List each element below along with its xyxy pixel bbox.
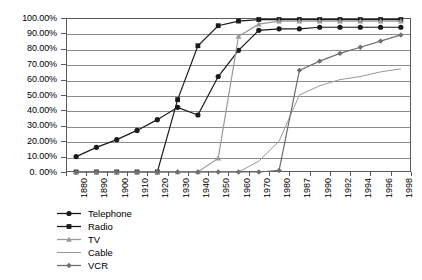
x-axis-tick-label: 1994: [364, 178, 373, 198]
data-point: [256, 17, 261, 22]
legend-item-cable[interactable]: Cable: [56, 246, 216, 259]
data-point: [74, 154, 79, 159]
x-axis-tick-mark: [330, 172, 331, 176]
data-point: [175, 97, 180, 102]
series-line: [76, 27, 401, 156]
data-point: [155, 117, 160, 122]
x-axis-tick-mark: [147, 172, 148, 176]
x-axis-tick-mark: [228, 172, 229, 176]
y-axis-tick-label: 10.00%: [27, 152, 57, 161]
y-axis-tick-label: 70.00%: [27, 60, 57, 69]
x-axis-tick-mark: [370, 172, 371, 176]
x-axis-tick-label: 1970: [263, 178, 272, 198]
legend-label: Cable: [82, 246, 113, 259]
x-axis-tick-label: 1992: [344, 178, 353, 198]
legend-label: Radio: [82, 220, 113, 233]
data-point: [216, 23, 221, 28]
data-point: [114, 137, 119, 142]
y-axis-tick-label: 20.00%: [27, 137, 57, 146]
legend-item-vcr[interactable]: VCR: [56, 259, 216, 272]
chart-legend: TelephoneRadioTVCableVCR: [56, 207, 216, 272]
legend-label: TV: [82, 233, 100, 246]
legend-item-telephone[interactable]: Telephone: [56, 207, 216, 220]
series-cable: [76, 69, 401, 172]
series-radio: [74, 17, 404, 174]
y-axis-tick-label: 50.00%: [27, 91, 57, 100]
series-line: [76, 21, 401, 172]
data-point: [378, 38, 383, 43]
legend-label: VCR: [82, 259, 108, 272]
data-point: [256, 28, 261, 33]
legend-marker-diamond-icon: [56, 259, 82, 272]
data-point: [94, 145, 99, 150]
data-point: [317, 58, 322, 63]
x-axis-tick-mark: [249, 172, 250, 176]
x-axis-tick-label: 1950: [222, 178, 231, 198]
x-axis-tick-label: 1940: [202, 178, 211, 198]
x-axis-tick-label: 1990: [324, 178, 333, 198]
x-axis-tick-mark: [269, 172, 270, 176]
x-axis-tick-label: 1910: [141, 178, 150, 198]
data-point: [337, 25, 342, 30]
x-axis-tick-label: 1890: [100, 178, 109, 198]
legend-marker-square-icon: [56, 220, 82, 233]
x-axis-tick-mark: [391, 172, 392, 176]
data-point: [216, 74, 221, 79]
data-point: [378, 25, 383, 30]
data-point: [195, 112, 200, 117]
data-point: [196, 43, 201, 48]
data-point: [358, 25, 363, 30]
x-axis-tick-mark: [208, 172, 209, 176]
data-point: [358, 45, 363, 50]
x-axis-tick-mark: [411, 172, 412, 176]
data-point: [398, 32, 403, 37]
data-point: [236, 19, 241, 24]
data-point: [337, 51, 342, 56]
x-axis-tick-mark: [188, 172, 189, 176]
legend-label: Telephone: [82, 207, 132, 220]
series-line: [76, 69, 401, 172]
data-point: [134, 128, 139, 133]
legend-marker-circle-icon: [56, 207, 82, 220]
x-axis-tick-label: 1920: [161, 178, 170, 198]
x-axis-tick-mark: [310, 172, 311, 176]
y-axis-tick-label: 40.00%: [27, 106, 57, 115]
legend-item-radio[interactable]: Radio: [56, 220, 216, 233]
data-point: [398, 25, 403, 30]
y-axis-tick-label: 100.00%: [22, 14, 57, 23]
x-axis-tick-label: 1998: [405, 178, 414, 198]
series-telephone: [74, 25, 404, 160]
data-point: [276, 26, 281, 31]
legend-marker-triangle-icon: [56, 233, 82, 246]
data-point: [215, 155, 221, 160]
legend-item-tv[interactable]: TV: [56, 233, 216, 246]
x-axis-tick-mark: [289, 172, 290, 176]
x-axis-tick-mark: [107, 172, 108, 176]
x-axis-tick-mark: [127, 172, 128, 176]
x-axis-tick-label: 1987: [303, 178, 312, 198]
y-axis-tick-label: 0. 00%: [30, 168, 57, 177]
x-axis-tick-mark: [350, 172, 351, 176]
y-axis-tick-label: 90.00%: [27, 29, 57, 38]
x-axis-tick-label: 1880: [80, 178, 89, 198]
series-line: [76, 20, 401, 172]
y-axis-tick-label: 30.00%: [27, 121, 57, 130]
data-point: [297, 68, 302, 73]
data-point: [297, 26, 302, 31]
x-axis-tick-mark: [168, 172, 169, 176]
legend-marker-none-icon: [56, 246, 82, 259]
series-vcr: [73, 32, 403, 174]
x-axis-tick-mark: [86, 172, 87, 176]
y-axis-tick-label: 80.00%: [27, 44, 57, 53]
chart-container: 100.00%90.00%80.00%70.00%60.00%50.00%40.…: [0, 0, 422, 280]
data-point: [317, 25, 322, 30]
y-axis: 100.00%90.00%80.00%70.00%60.00%50.00%40.…: [0, 0, 66, 180]
x-axis-tick-label: 1980: [283, 178, 292, 198]
x-axis-tick-mark: [66, 172, 67, 176]
data-series-layer: [66, 18, 411, 172]
x-axis-tick-label: 1960: [243, 178, 252, 198]
series-line: [76, 35, 401, 172]
x-axis-tick-label: 1900: [121, 178, 130, 198]
x-axis-tick-label: 1930: [182, 178, 191, 198]
x-axis-tick-label: 1996: [385, 178, 394, 198]
